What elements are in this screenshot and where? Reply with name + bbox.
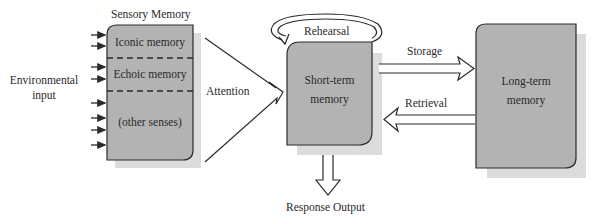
ltm-label-line2: memory bbox=[476, 94, 576, 107]
ltm-label-line1: Long-term bbox=[476, 75, 576, 88]
environmental-input-label-line1: Environmental bbox=[4, 74, 84, 87]
storage-label: Storage bbox=[407, 45, 442, 58]
retrieval-arrow-icon bbox=[384, 108, 475, 131]
attention-label: Attention bbox=[206, 85, 249, 98]
response-output-label: Response Output bbox=[286, 201, 365, 214]
iconic-memory-label: Iconic memory bbox=[107, 36, 193, 49]
other-senses-label: (other senses) bbox=[107, 116, 193, 129]
echoic-memory-label: Echoic memory bbox=[107, 68, 193, 81]
retrieval-label: Retrieval bbox=[405, 97, 447, 110]
storage-arrow-icon bbox=[379, 57, 474, 80]
stm-label-line1: Short-term bbox=[287, 74, 372, 87]
stm-label-line2: memory bbox=[287, 93, 372, 106]
sensory-memory-title: Sensory Memory bbox=[111, 8, 191, 21]
response-arrow-icon bbox=[316, 155, 340, 195]
diagram-canvas bbox=[0, 0, 593, 223]
input-arrows bbox=[91, 35, 105, 145]
attention-arrow-icon bbox=[205, 38, 283, 162]
environmental-input-label-line2: input bbox=[4, 89, 84, 102]
rehearsal-label: Rehearsal bbox=[304, 25, 349, 38]
